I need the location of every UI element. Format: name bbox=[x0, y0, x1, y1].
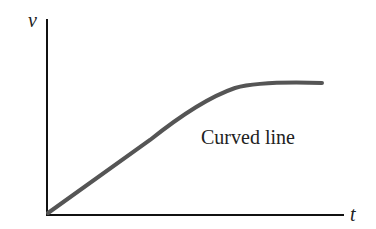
curve-annotation: Curved line bbox=[201, 126, 295, 148]
x-axis-label: t bbox=[350, 203, 356, 225]
velocity-time-graph: v t Curved line bbox=[0, 0, 376, 229]
y-axis-label: v bbox=[28, 9, 37, 31]
